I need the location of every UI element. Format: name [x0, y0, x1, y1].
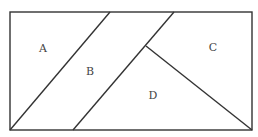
region-label-b: B: [86, 65, 94, 78]
line-a-b: [10, 12, 110, 130]
outer-rectangle: [10, 12, 252, 130]
region-label-c: C: [209, 41, 217, 54]
region-label-d: D: [149, 89, 158, 102]
region-label-a: A: [38, 42, 48, 55]
partition-diagram: A B C D: [0, 0, 258, 137]
line-c-d: [146, 46, 252, 130]
